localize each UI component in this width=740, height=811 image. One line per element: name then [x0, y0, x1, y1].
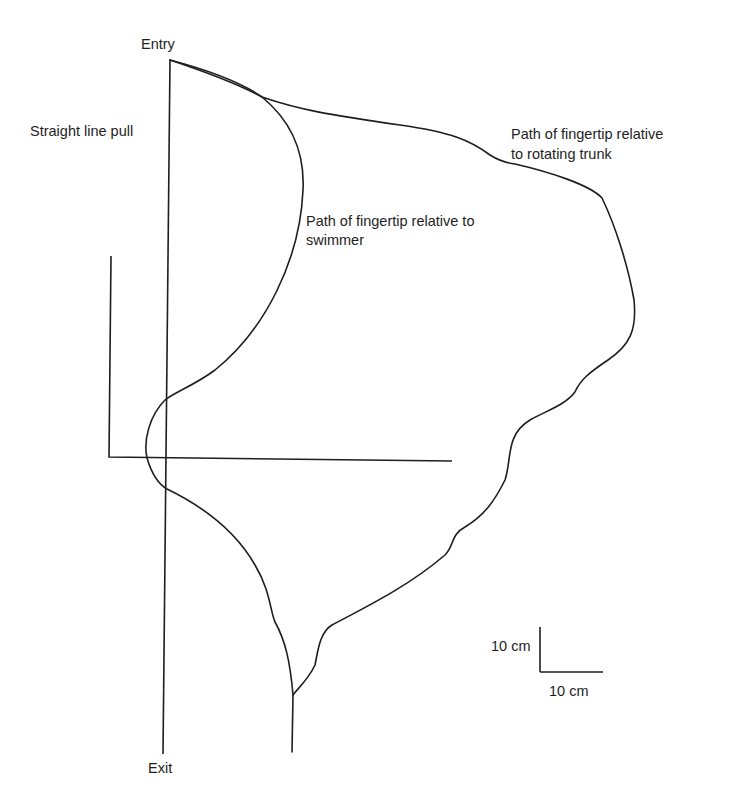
scale-vertical-label: 10 cm [491, 637, 531, 656]
trunk-path-label-line1: Path of fingertip relative [511, 125, 663, 144]
swimmer-path-label-line1: Path of fingertip relative to [306, 212, 474, 231]
stroke-path-diagram: Entry Exit Straight line pull Path of fi… [0, 0, 740, 811]
straight-line-pull [163, 60, 170, 754]
scale-horizontal-label: 10 cm [549, 682, 589, 701]
exit-label: Exit [148, 759, 172, 778]
trunk-path-label-line2: to rotating trunk [511, 145, 612, 164]
entry-label: Entry [141, 35, 175, 54]
reference-axes [109, 256, 452, 461]
swimmer-path-label-line2: swimmer [306, 231, 364, 250]
straight-line-label: Straight line pull [30, 122, 133, 141]
